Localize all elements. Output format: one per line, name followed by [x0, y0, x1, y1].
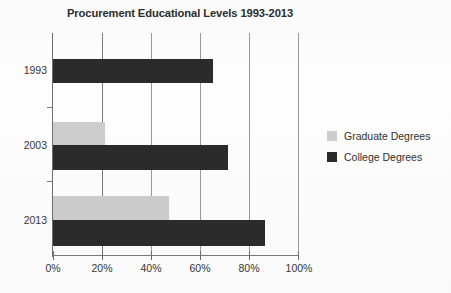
bar-2003-college-degrees[interactable]: [53, 145, 228, 170]
bar-2013-college-degrees[interactable]: [53, 220, 265, 246]
y-axis-label-2013: 2013: [5, 214, 47, 226]
x-axis-label-0: 0%: [31, 262, 75, 274]
bar-chart: Procurement Educational Levels 1993-2013…: [0, 0, 451, 293]
bar-2003-graduate-degrees[interactable]: [53, 122, 105, 145]
x-tick-100: [298, 251, 299, 260]
bar-2013-graduate-degrees[interactable]: [53, 196, 169, 220]
x-axis-label-20: 20%: [80, 262, 124, 274]
x-axis-label-40: 40%: [129, 262, 173, 274]
x-tick-0: [53, 251, 54, 260]
legend-label-college-degrees: College Degrees: [344, 151, 422, 163]
y-axis-label-2003: 2003: [5, 139, 47, 151]
x-axis-label-100: 100%: [277, 262, 321, 274]
x-axis-label-60: 60%: [178, 262, 222, 274]
legend-item-graduate-degrees[interactable]: Graduate Degrees: [327, 130, 447, 142]
y-axis-label-1993: 1993: [5, 64, 47, 76]
chart-title: Procurement Educational Levels 1993-2013: [0, 7, 360, 19]
y-tick-2: [47, 181, 53, 182]
x-tick-20: [102, 251, 103, 260]
x-tick-40: [151, 251, 152, 260]
gridline-100: [298, 33, 299, 255]
legend-label-graduate-degrees: Graduate Degrees: [344, 130, 430, 142]
bar-1993-college-degrees[interactable]: [53, 59, 213, 83]
legend-item-college-degrees[interactable]: College Degrees: [327, 151, 447, 163]
x-tick-60: [200, 251, 201, 260]
chart-legend: Graduate Degrees College Degrees: [327, 130, 447, 172]
y-tick-1: [47, 107, 53, 108]
x-axis-line: [53, 255, 299, 256]
legend-swatch-graduate-icon: [327, 131, 337, 141]
legend-swatch-college-icon: [327, 152, 337, 162]
plot-area: [53, 33, 299, 255]
x-tick-80: [249, 251, 250, 260]
x-axis-label-80: 80%: [227, 262, 271, 274]
